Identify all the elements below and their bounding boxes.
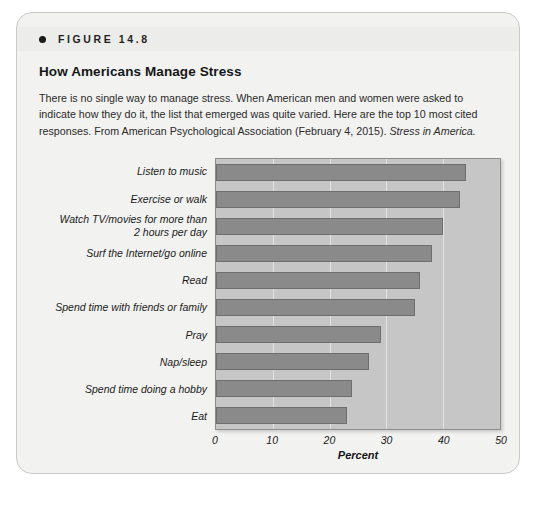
bar-series xyxy=(216,159,500,429)
category-axis-labels: Listen to musicExercise or walkWatch TV/… xyxy=(23,158,213,430)
figure-title: How Americans Manage Stress xyxy=(39,64,519,79)
bar-row xyxy=(216,240,500,267)
bar-row xyxy=(216,321,500,348)
category-label: Read xyxy=(23,267,213,294)
category-label: Pray xyxy=(23,321,213,348)
bar xyxy=(216,245,432,262)
x-axis-tick-label: 0 xyxy=(212,434,218,446)
figure-caption-source: Stress in America. xyxy=(389,125,475,137)
x-axis-title: Percent xyxy=(215,449,501,461)
bar xyxy=(216,191,460,208)
bar-row xyxy=(216,186,500,213)
x-axis-tick-label: 20 xyxy=(324,434,336,446)
category-label: Nap/sleep xyxy=(23,348,213,375)
category-label: Eat xyxy=(23,403,213,430)
figure-number-label: FIGURE 14.8 xyxy=(58,33,150,45)
category-label: Spend time with friends or family xyxy=(23,294,213,321)
category-label: Exercise or walk xyxy=(23,185,213,212)
figure-header: FIGURE 14.8 xyxy=(17,27,519,51)
bar xyxy=(216,272,420,289)
x-axis-tick-label: 40 xyxy=(438,434,450,446)
bar-row xyxy=(216,375,500,402)
value-axis-ticks: 01020304050 xyxy=(215,431,501,451)
bar-row xyxy=(216,348,500,375)
bullet-icon xyxy=(39,36,46,43)
x-axis-tick-label: 10 xyxy=(266,434,278,446)
x-axis-tick-label: 50 xyxy=(495,434,507,446)
bar-row xyxy=(216,159,500,186)
category-label: Spend time doing a hobby xyxy=(23,376,213,403)
figure-card: FIGURE 14.8 How Americans Manage Stress … xyxy=(16,12,520,474)
bar-row xyxy=(216,402,500,429)
bar-chart: Listen to musicExercise or walkWatch TV/… xyxy=(17,148,520,468)
figure-caption: There is no single way to manage stress.… xyxy=(39,90,497,139)
bar xyxy=(216,380,352,397)
bar-row xyxy=(216,213,500,240)
bar-row xyxy=(216,294,500,321)
bar-row xyxy=(216,267,500,294)
category-label: Surf the Internet/go online xyxy=(23,240,213,267)
plot-area xyxy=(215,158,501,430)
bar xyxy=(216,299,415,316)
bar xyxy=(216,326,381,343)
bar xyxy=(216,353,369,370)
bar xyxy=(216,218,443,235)
bar xyxy=(216,164,466,181)
category-label: Watch TV/movies for more than 2 hours pe… xyxy=(23,212,213,239)
category-label: Listen to music xyxy=(23,158,213,185)
x-axis-tick-label: 30 xyxy=(381,434,393,446)
bar xyxy=(216,407,347,424)
